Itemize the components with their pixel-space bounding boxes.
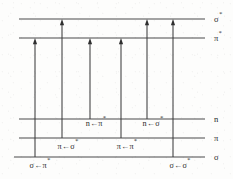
- level-label-pi: π: [214, 133, 219, 143]
- level-label-sigma-star: σ*: [214, 9, 222, 24]
- transition-arrowhead-sigma-to-sigma-star: [171, 19, 175, 25]
- transition-label-n-to-pi-star: n←π*: [86, 113, 107, 128]
- transition-arrowhead-pi-to-pi-star: [119, 38, 123, 44]
- mo-energy-level-diagram: σ*π*nπσ σ←π*π←σ*n←π*π←π*n←σ*σ←σ*: [0, 0, 233, 179]
- transition-arrowhead-pi-to-sigma-star: [60, 19, 64, 25]
- level-label-pi-star: π*: [214, 28, 222, 43]
- level-label-sigma: σ: [214, 152, 219, 162]
- level-label-n: n: [214, 114, 219, 124]
- energy-level-labels: σ*π*nπσ: [214, 9, 222, 162]
- transition-arrowhead-n-to-sigma-star: [145, 19, 149, 25]
- transition-arrowhead-n-to-pi-star: [88, 38, 92, 44]
- transition-arrowhead-sigma-to-pi-star: [33, 38, 37, 44]
- energy-level-lines: [14, 19, 205, 157]
- transition-label-n-to-sigma-star: n←σ*: [143, 113, 164, 128]
- transition-arrows: [33, 19, 175, 157]
- diagram-canvas: σ*π*nπσ σ←π*π←σ*n←π*π←π*n←σ*σ←σ*: [0, 0, 233, 179]
- transition-labels: σ←π*π←σ*n←π*π←π*n←σ*σ←σ*: [30, 113, 191, 170]
